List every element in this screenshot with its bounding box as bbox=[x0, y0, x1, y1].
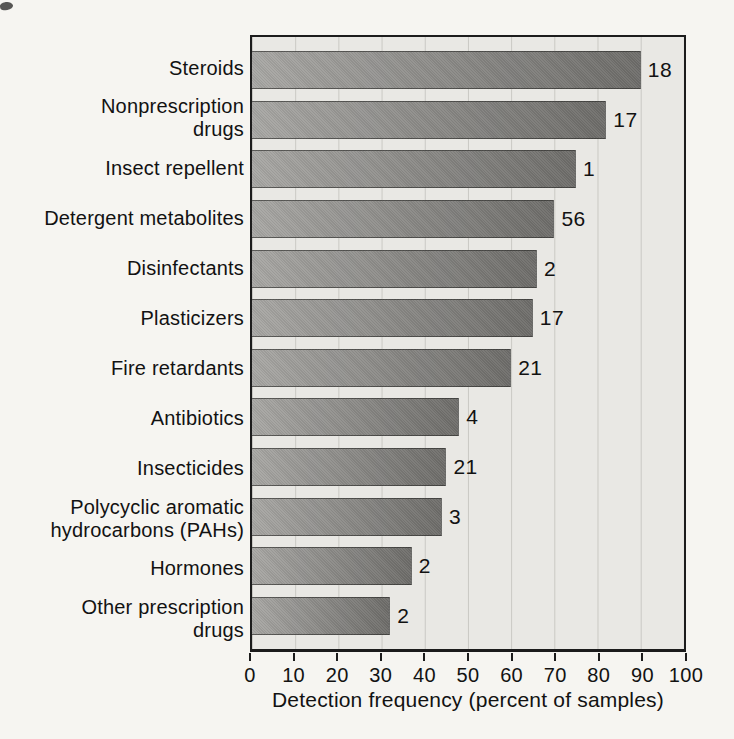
bar-row: 4 bbox=[252, 398, 684, 436]
x-tick-label: 60 bbox=[500, 664, 523, 687]
x-tick-label: 90 bbox=[631, 664, 654, 687]
bar-count-label: 17 bbox=[613, 108, 637, 132]
x-tick bbox=[336, 653, 338, 661]
bar bbox=[252, 349, 511, 387]
bar-chart-figure: SteroidsNonprescription drugsInsect repe… bbox=[0, 0, 734, 739]
bar bbox=[252, 299, 533, 337]
x-tick-label: 50 bbox=[457, 664, 480, 687]
bar-row: 21 bbox=[252, 349, 684, 387]
bar-count-label: 4 bbox=[466, 405, 478, 429]
bar-row: 18 bbox=[252, 51, 684, 89]
category-label: Insecticides bbox=[0, 450, 244, 488]
bar-count-label: 18 bbox=[648, 58, 672, 82]
bar-count-label: 17 bbox=[540, 306, 564, 330]
category-label: Nonprescription drugs bbox=[0, 99, 244, 137]
bar-row: 3 bbox=[252, 498, 684, 536]
bar-row: 17 bbox=[252, 101, 684, 139]
bar bbox=[252, 448, 446, 486]
bar-count-label: 21 bbox=[518, 356, 542, 380]
x-tick bbox=[293, 653, 295, 661]
x-tick-label: 10 bbox=[282, 664, 305, 687]
x-tick bbox=[685, 653, 687, 661]
x-tick bbox=[423, 653, 425, 661]
bar-row: 2 bbox=[252, 250, 684, 288]
x-tick bbox=[554, 653, 556, 661]
bar-count-label: 3 bbox=[449, 505, 461, 529]
bar-row: 56 bbox=[252, 200, 684, 238]
x-tick-label: 70 bbox=[544, 664, 567, 687]
bar-count-label: 56 bbox=[561, 207, 585, 231]
bar bbox=[252, 200, 554, 238]
bar-row: 1 bbox=[252, 150, 684, 188]
x-axis-title: Detection frequency (percent of samples) bbox=[250, 688, 686, 712]
bar-row: 17 bbox=[252, 299, 684, 337]
bar-count-label: 2 bbox=[544, 257, 556, 281]
x-tick-label: 20 bbox=[326, 664, 349, 687]
x-tick bbox=[641, 653, 643, 661]
x-tick bbox=[249, 653, 251, 661]
x-tick-label: 80 bbox=[587, 664, 610, 687]
bar-row: 2 bbox=[252, 597, 684, 635]
category-label: Other prescription drugs bbox=[0, 600, 244, 638]
bar-count-label: 2 bbox=[419, 554, 431, 578]
bar bbox=[252, 51, 641, 89]
category-label: Polycyclic aromatic hydrocarbons (PAHs) bbox=[0, 500, 244, 538]
bar bbox=[252, 597, 390, 635]
x-tick bbox=[511, 653, 513, 661]
category-label: Hormones bbox=[0, 550, 244, 588]
category-label: Plasticizers bbox=[0, 299, 244, 337]
x-tick-label: 0 bbox=[244, 664, 255, 687]
bar bbox=[252, 250, 537, 288]
bar bbox=[252, 498, 442, 536]
bar-count-label: 1 bbox=[583, 157, 595, 181]
plot-area: 181715621721421322 bbox=[250, 35, 686, 652]
category-label: Insect repellent bbox=[0, 149, 244, 187]
category-label: Disinfectants bbox=[0, 249, 244, 287]
category-label: Fire retardants bbox=[0, 349, 244, 387]
x-tick-label: 30 bbox=[369, 664, 392, 687]
bar bbox=[252, 547, 412, 585]
bar bbox=[252, 398, 459, 436]
category-label: Detergent metabolites bbox=[0, 199, 244, 237]
x-tick bbox=[598, 653, 600, 661]
scan-artifact bbox=[0, 1, 13, 11]
bar-row: 2 bbox=[252, 547, 684, 585]
bar-count-label: 2 bbox=[397, 604, 409, 628]
bar-count-label: 21 bbox=[453, 455, 477, 479]
bar bbox=[252, 101, 606, 139]
x-tick bbox=[380, 653, 382, 661]
x-tick bbox=[467, 653, 469, 661]
x-tick-label: 100 bbox=[669, 664, 703, 687]
bar-row: 21 bbox=[252, 448, 684, 486]
category-labels-column: SteroidsNonprescription drugsInsect repe… bbox=[0, 35, 244, 652]
category-label: Steroids bbox=[0, 49, 244, 87]
x-tick-label: 40 bbox=[413, 664, 436, 687]
category-label: Antibiotics bbox=[0, 400, 244, 438]
bar bbox=[252, 150, 576, 188]
bar-rows-container: 181715621721421322 bbox=[252, 37, 684, 649]
